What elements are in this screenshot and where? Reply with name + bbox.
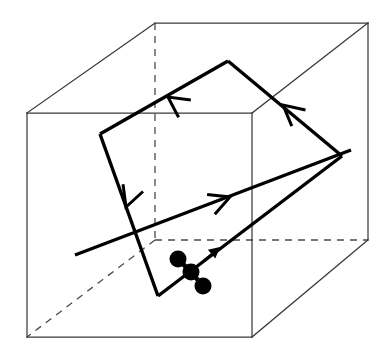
cube-hidden-edge-back_bottom_left-to-front_bottom_left [27, 240, 155, 337]
molecule-group [170, 247, 221, 295]
loop-direction-arrowheads [123, 97, 306, 214]
figure-canvas [0, 0, 388, 357]
cube-edge-front_top_left-to-back_top_left [27, 23, 155, 113]
cube-edge-front_top_right-to-back_top_right [252, 23, 368, 113]
loop-edge-left-to-bottom [100, 134, 158, 296]
molecule-atom-upper-left [170, 251, 187, 268]
loop-edge-top-to-left [100, 61, 228, 134]
directed-axis [75, 150, 351, 255]
arrowhead-arrow-left-bottom-edge [123, 184, 143, 207]
figure-root [0, 0, 388, 357]
arrowhead-arrow-top-left-edge [168, 97, 191, 117]
cube-edge-front_bottom_right-to-back_bottom_right [252, 240, 368, 337]
molecule-atom-lower-right [195, 278, 212, 295]
axis-line-segment [75, 150, 351, 255]
magnetic-moment-arrow-shaft [193, 254, 212, 270]
oriented-loop [100, 61, 342, 296]
